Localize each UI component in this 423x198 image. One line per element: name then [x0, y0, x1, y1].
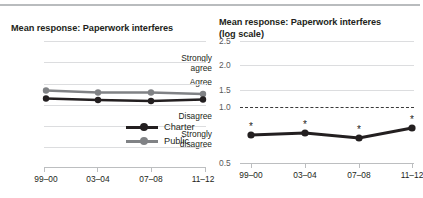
y-tick-label-1-0: 1.0	[219, 102, 241, 112]
y-tick-label-0-5: 0.5	[219, 158, 241, 168]
y-tick-label-2-0: 2.0	[219, 60, 241, 70]
x-tick-label: 03–04	[293, 170, 316, 180]
x-tick-label: 11–12	[401, 170, 423, 180]
plot-area-left: 99–00 03–04 07–08 11–12	[44, 41, 206, 167]
series-lines-right	[240, 34, 414, 165]
x-axis-tick	[97, 167, 98, 172]
x-tick-label: 07–08	[347, 170, 370, 180]
series-line-charter	[46, 99, 203, 102]
x-axis-tick	[205, 167, 206, 172]
y-tick-label-1-5: 1.5	[219, 85, 241, 95]
legend-label-public: Public	[164, 135, 189, 148]
significance-star: *	[249, 122, 253, 132]
x-axis-line	[44, 167, 206, 168]
significance-star: *	[357, 125, 361, 135]
x-tick-label: 07–08	[139, 174, 162, 184]
chart-panel-left: Mean response: Paperwork interferes Stro…	[0, 0, 212, 198]
series-lines-left	[44, 41, 206, 167]
x-tick-label: 99–00	[34, 174, 57, 184]
chart-panel-right: Mean response: Paperwork interferes (log…	[212, 0, 420, 198]
significance-star: *	[303, 120, 307, 130]
x-axis-tick	[151, 167, 152, 172]
x-tick-label: 03–04	[86, 174, 109, 184]
x-tick-label: 99–00	[239, 170, 262, 180]
series-line-public	[46, 91, 203, 95]
legend-marker-charter	[140, 123, 148, 131]
y-tick-label-2-5: 2.5	[219, 36, 241, 46]
panel-title-left: Mean response: Paperwork interferes	[11, 23, 206, 35]
x-tick-label: 11–12	[192, 174, 215, 184]
series-line-odds	[251, 128, 412, 138]
legend-label-charter: Charter	[164, 121, 195, 134]
significance-star: *	[410, 115, 414, 125]
x-axis-tick	[44, 167, 45, 172]
legend-marker-public	[140, 137, 148, 145]
plot-area-right: 2.5 2.0 1.5 1.0 0.5 * * * * 99–00 03–04 …	[240, 34, 414, 165]
